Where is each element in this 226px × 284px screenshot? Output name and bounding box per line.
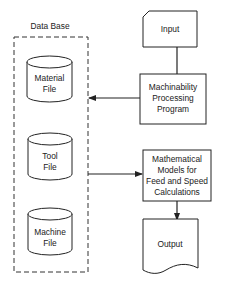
machine-file-cylinder: Machine File	[28, 208, 72, 255]
models-line4: Calculations	[154, 187, 200, 197]
machine-file-line2: File	[43, 238, 57, 248]
database-group: Data Base Material File Tool File Machin…	[14, 21, 88, 272]
processing-box: Machinability Processing Program	[140, 74, 206, 124]
output-document: Output	[143, 219, 198, 273]
tool-file-line1: Tool	[42, 151, 58, 161]
input-label: Input	[161, 24, 180, 34]
processing-line2: Processing	[152, 93, 194, 103]
models-line2: Models for	[157, 165, 196, 175]
models-line1: Mathematical	[152, 154, 202, 164]
material-file-line1: Material	[35, 73, 65, 83]
flowchart: Data Base Material File Tool File Machin…	[0, 0, 226, 284]
database-title: Data Base	[30, 21, 69, 31]
machine-file-line1: Machine	[34, 227, 66, 237]
models-box: Mathematical Models for Feed and Speed C…	[143, 150, 211, 201]
processing-line3: Program	[157, 104, 189, 114]
input-card: Input	[143, 11, 197, 47]
processing-line1: Machinability	[149, 82, 198, 92]
output-label: Output	[157, 239, 183, 249]
models-line3: Feed and Speed	[146, 176, 208, 186]
material-file-line2: File	[43, 84, 57, 94]
tool-file-line2: File	[43, 162, 57, 172]
tool-file-cylinder: Tool File	[28, 133, 72, 180]
material-file-cylinder: Material File	[27, 56, 72, 102]
